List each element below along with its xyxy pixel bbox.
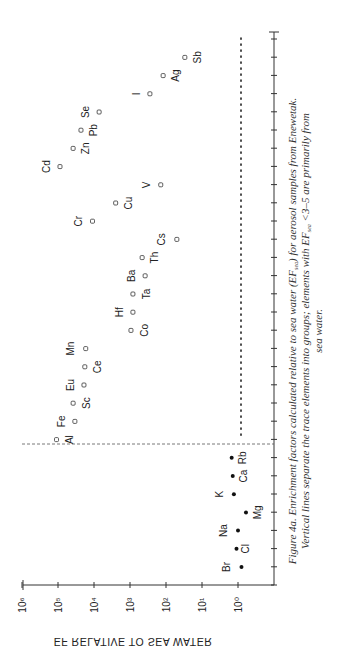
data-point-sb <box>183 55 187 59</box>
data-point-al <box>55 438 59 442</box>
ef-tick-label: 10² <box>161 597 172 612</box>
point-label-zn: Zn <box>80 143 91 155</box>
data-point-rb <box>230 456 234 460</box>
enrichment-factor-chart: 10⁰10¹10²10³10⁴10⁵10⁶ BrClNaMgKCaRbAlFeS… <box>0 0 343 662</box>
point-label-cl: Cl <box>240 544 251 553</box>
point-label-br: Br <box>221 561 232 572</box>
data-point-na <box>236 529 240 533</box>
data-point-th <box>140 256 144 260</box>
point-label-ag: Ag <box>170 69 181 81</box>
caption-line-1: Figure 4a. Enrichment factors calculated… <box>286 98 299 565</box>
point-label-th: Th <box>149 252 160 264</box>
point-label-v: V <box>141 181 152 188</box>
point-label-cd: Cd <box>41 160 52 173</box>
ef-axis: 10⁰10¹10²10³10⁴10⁵10⁶ <box>17 580 274 613</box>
point-label-na: Na <box>218 524 229 537</box>
point-label-ba: Ba <box>126 269 137 282</box>
data-point-v <box>159 183 163 187</box>
ef-tick-label: 10¹ <box>197 597 208 612</box>
data-point-br <box>239 565 243 569</box>
data-point-ag <box>161 74 165 78</box>
figure: 10⁰10¹10²10³10⁴10⁵10⁶ BrClNaMgKCaRbAlFeS… <box>0 0 343 662</box>
data-point-cl <box>235 547 239 551</box>
data-point-ta <box>131 292 135 296</box>
point-label-pb: Pb <box>88 124 99 137</box>
caption-line-2: Vertical lines separate the trace elemen… <box>299 113 312 549</box>
point-label-cr: Cr <box>73 215 84 226</box>
data-point-labels: BrClNaMgKCaRbAlFeScEuCeMnCoHfTaBaThCsCrC… <box>41 51 263 572</box>
point-label-cs: Cs <box>156 233 167 245</box>
data-point-mn <box>84 347 88 351</box>
ef-tick-label: 10³ <box>125 597 136 612</box>
data-point-co <box>129 328 133 332</box>
point-label-cu: Cu <box>123 197 134 210</box>
point-label-al: Al <box>64 435 75 444</box>
data-point-se <box>97 110 101 114</box>
ef-tick-label: 10⁶ <box>17 597 28 612</box>
point-label-hf: Hf <box>114 307 125 317</box>
figure-caption: Figure 4a. Enrichment factors calculated… <box>286 98 324 565</box>
point-label-mn: Mn <box>65 342 76 356</box>
point-label-i: I <box>131 92 142 95</box>
category-axis <box>269 32 279 585</box>
data-point-hf <box>131 310 135 314</box>
point-label-fe: Fe <box>56 415 67 427</box>
point-label-k: K <box>214 491 225 498</box>
data-point-cs <box>175 237 179 241</box>
ef-ticks: 10⁰10¹10²10³10⁴10⁵10⁶ <box>17 582 244 613</box>
point-label-sb: Sb <box>192 51 203 64</box>
point-label-se: Se <box>80 105 91 118</box>
data-point-cd <box>58 165 62 169</box>
ef-tick-label: 10⁵ <box>53 597 64 612</box>
point-label-eu: Eu <box>65 379 76 391</box>
point-label-co: Co <box>139 324 150 337</box>
data-point-mg <box>244 510 248 514</box>
point-label-ce: Ce <box>92 360 103 373</box>
data-point-cu <box>114 201 118 205</box>
caption-line-3: sea water. <box>312 309 324 353</box>
data-point-zn <box>71 146 75 150</box>
data-point-k <box>232 492 236 496</box>
data-point-ce <box>83 365 87 369</box>
ef-tick-label: 10⁰ <box>233 597 244 612</box>
data-point-cr <box>91 219 95 223</box>
ef-axis-title: EF RELATIVE TO SEA WATER <box>54 636 212 648</box>
data-point-ba <box>143 274 147 278</box>
point-label-sc: Sc <box>81 397 92 409</box>
data-point-eu <box>82 383 86 387</box>
point-label-mg: Mg <box>252 505 263 519</box>
data-point-fe <box>73 419 77 423</box>
point-label-ca: Ca <box>238 469 249 482</box>
point-label-ta: Ta <box>141 288 152 299</box>
data-point-ca <box>231 474 235 478</box>
data-point-sc <box>71 401 75 405</box>
ef-tick-label: 10⁴ <box>89 597 100 612</box>
data-point-i <box>148 92 152 96</box>
point-label-rb: Rb <box>237 451 248 464</box>
data-point-pb <box>79 128 83 132</box>
